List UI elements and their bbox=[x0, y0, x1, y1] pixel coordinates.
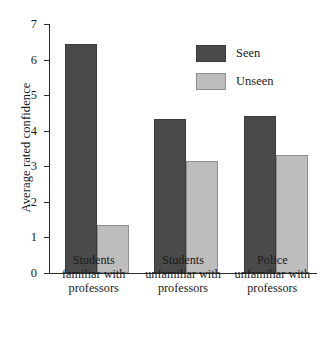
y-tick-label-3: 3 bbox=[31, 160, 37, 173]
legend: Seen Unseen bbox=[196, 44, 274, 100]
y-tick-label-5: 5 bbox=[31, 89, 37, 102]
legend-swatch-unseen bbox=[196, 73, 226, 90]
category-label-line: Police bbox=[214, 253, 331, 267]
bar-group bbox=[49, 24, 138, 273]
bar-seen bbox=[154, 119, 186, 273]
category-label-line: professors bbox=[214, 281, 331, 295]
category-label: Policeunfamiliar withprofessors bbox=[214, 253, 331, 295]
y-tick-label-1: 1 bbox=[31, 231, 37, 244]
category-label-line: unfamiliar with bbox=[214, 267, 331, 281]
legend-label-unseen: Unseen bbox=[236, 75, 274, 88]
y-tick-label-2: 2 bbox=[31, 196, 37, 209]
y-tick-label-7: 7 bbox=[31, 18, 37, 31]
legend-label-seen: Seen bbox=[236, 47, 260, 60]
bar-seen bbox=[65, 44, 97, 273]
bar-chart: Average rated confidence 01234567 Studen… bbox=[0, 0, 333, 338]
legend-item-unseen: Unseen bbox=[196, 72, 274, 91]
legend-item-seen: Seen bbox=[196, 44, 274, 63]
y-tick-label-6: 6 bbox=[31, 53, 37, 66]
legend-swatch-seen bbox=[196, 45, 226, 62]
bar-seen bbox=[244, 116, 276, 273]
y-tick-label-4: 4 bbox=[31, 124, 37, 137]
plot-area: 01234567 bbox=[49, 24, 317, 273]
y-axis-title: Average rated confidence bbox=[19, 38, 34, 258]
